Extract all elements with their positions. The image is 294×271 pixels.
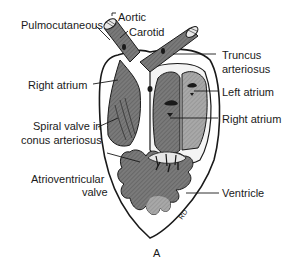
frog-heart-diagram: RD Pulmocutaneous Aortic Caroti	[0, 0, 294, 271]
label-right-atrium-right: Right atrium	[222, 113, 281, 125]
label-ventricle: Ventricle	[222, 187, 264, 199]
label-carotid: Carotid	[129, 26, 164, 38]
label-truncus-line2: arteriosus	[222, 63, 270, 75]
label-spiral-line2: conus arteriosus	[21, 134, 102, 146]
label-aortic: Aortic	[118, 11, 146, 23]
label-right-atrium-left: Right atrium	[28, 79, 87, 91]
label-av-line2: valve	[82, 186, 108, 198]
label-spiral-line1: Spiral valve in	[33, 120, 101, 132]
label-left-atrium: Left atrium	[222, 86, 274, 98]
right-atrium-shape	[153, 72, 180, 155]
label-pulmocutaneous: Pulmocutaneous	[21, 19, 103, 31]
panel-label: A	[153, 247, 160, 259]
label-truncus-line1: Truncus	[222, 49, 261, 61]
label-av-line1: Atrioventricular	[31, 173, 104, 185]
